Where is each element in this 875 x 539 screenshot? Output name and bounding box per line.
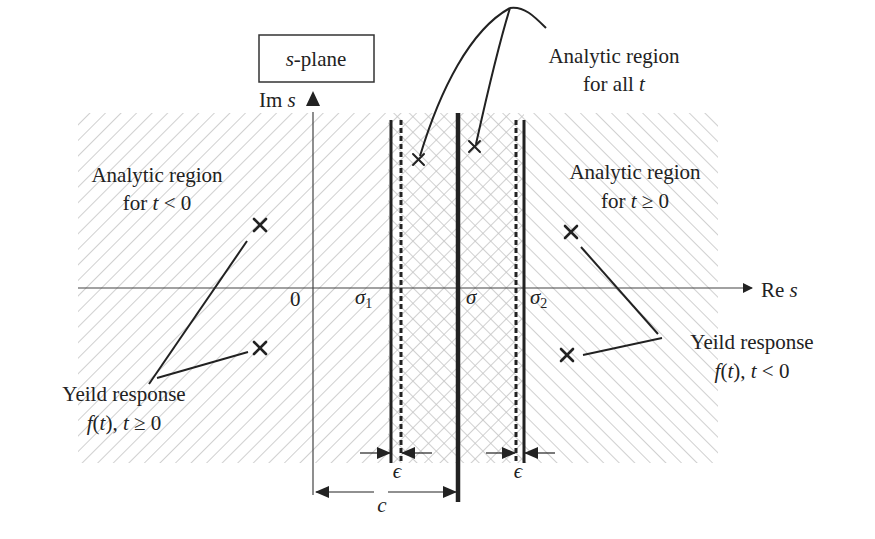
svg-text:Yeild response: Yeild response bbox=[62, 382, 185, 406]
svg-text:f(t), t ≥ 0: f(t), t ≥ 0 bbox=[87, 411, 162, 435]
sigma-label: σ bbox=[466, 285, 478, 309]
c-label: c bbox=[377, 493, 387, 517]
svg-text:for t ≥ 0: for t ≥ 0 bbox=[601, 189, 669, 213]
svg-text:s-plane: s-plane bbox=[286, 47, 347, 71]
svg-text:for t < 0: for t < 0 bbox=[123, 191, 191, 215]
svg-text:Analytic region: Analytic region bbox=[548, 44, 680, 68]
s-plane-diagram: s-plane Im s Re s 0 σ1 σ σ2 Analytic reg… bbox=[0, 0, 875, 539]
title-text: -plane bbox=[294, 47, 346, 71]
svg-text:Analytic region: Analytic region bbox=[569, 160, 701, 184]
origin-label: 0 bbox=[290, 287, 301, 311]
im-axis-arrow-icon bbox=[306, 91, 320, 106]
title-var: s bbox=[286, 47, 294, 71]
svg-text:Yeild response: Yeild response bbox=[690, 330, 813, 354]
re-axis-label: Re s bbox=[761, 278, 798, 302]
annotation-analytic-all-t: Analytic region for all t bbox=[548, 44, 680, 96]
svg-text:f(t), t < 0: f(t), t < 0 bbox=[715, 359, 790, 383]
s-plane-title-box: s-plane bbox=[259, 35, 374, 82]
im-axis-label: Im s bbox=[259, 88, 296, 112]
svg-text:for all t: for all t bbox=[583, 72, 646, 96]
svg-text:Analytic region: Analytic region bbox=[91, 163, 223, 187]
